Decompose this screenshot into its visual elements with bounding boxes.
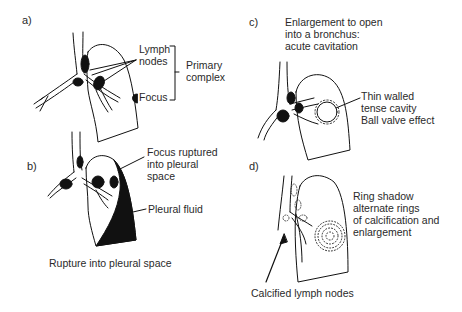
lymph-node [295, 103, 303, 113]
lymph-node [73, 78, 83, 86]
panel-c-letter: c) [249, 16, 258, 28]
focus-lesion [133, 94, 138, 103]
lymph-node [287, 92, 295, 104]
lung-outline-d [295, 176, 348, 282]
lymph-nodes-label-line1: Lymph [139, 43, 170, 55]
cavity-label-line2: tense cavity [361, 102, 416, 114]
lymph-node [77, 156, 83, 168]
lymph-node [60, 179, 72, 189]
panel-b-drawing [48, 132, 146, 246]
cavity-label-line1: Thin walled [361, 90, 414, 102]
panel-d-letter: d) [249, 160, 259, 172]
focus-ruptured-label-line1: Focus ruptured [147, 146, 218, 158]
cavitation-title-line3: acute cavitation [285, 40, 358, 52]
primary-complex-label-line2: complex [186, 71, 225, 83]
ring-shadow [315, 221, 345, 251]
panel-a-letter: a) [22, 14, 32, 26]
pleural-fluid-label: Pleural fluid [148, 203, 203, 215]
thin-walled-cavity [317, 102, 337, 122]
lymph-node [277, 110, 289, 122]
tuberculosis-stages-figure: a) Lymph nodes Focus Primary complex b) … [0, 0, 462, 312]
arrow-head-icon [280, 234, 287, 244]
lymph-nodes-label-line2: nodes [139, 55, 168, 67]
lung-outline-c [296, 75, 350, 160]
focus-ruptured-label-line2: into pleural [147, 158, 198, 170]
panel-c-drawing [258, 62, 360, 160]
ring-shadow-label-line4: enlargement [353, 226, 411, 238]
lymph-node [92, 176, 104, 188]
ring-shadow-label-line2: alternate rings [353, 202, 420, 214]
lymph-node [81, 55, 89, 73]
panel-b-caption: Rupture into pleural space [49, 257, 172, 269]
cavity-label-line3: Ball valve effect [361, 114, 434, 126]
primary-complex-bracket [170, 46, 179, 100]
cavitation-title-line1: Enlargement to open [285, 16, 382, 28]
ring-shadow-label-line3: of calcification and [353, 214, 439, 226]
lymph-node [110, 176, 118, 188]
panel-b-letter: b) [27, 160, 37, 172]
pleural-fluid [96, 160, 136, 246]
cavitation-title-line2: into a bronchus: [285, 28, 360, 40]
ring-shadow-label-line1: Ring shadow [353, 190, 414, 202]
cavity-rim [315, 100, 339, 124]
panel-d-drawing [266, 176, 348, 282]
primary-complex-label-line1: Primary [186, 59, 222, 71]
focus-ruptured-label-line3: space [147, 170, 175, 182]
focus-label: Focus [139, 91, 168, 103]
calcified-lymph-nodes-label: Calcified lymph nodes [251, 287, 354, 299]
